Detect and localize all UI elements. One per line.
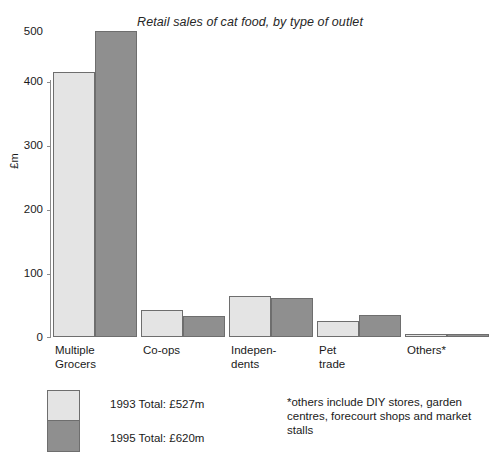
category-label-multiple-grocers: Multiple Grocers: [55, 344, 96, 371]
category-label-others: Others*: [407, 344, 446, 358]
category-label-co-ops: Co-ops: [143, 344, 180, 358]
y-tick-label-300: 300: [5, 139, 43, 151]
chart-title: Retail sales of cat food, by type of out…: [137, 15, 437, 29]
bar-group-multiple-grocers: [53, 30, 137, 338]
footnote-others: *others include DIY stores, garden centr…: [287, 395, 472, 437]
legend-swatch-1993: [47, 390, 80, 421]
bar-1995-others[interactable]: [447, 334, 489, 337]
y-tick-label-400: 400: [5, 75, 43, 87]
bar-group-independents: [229, 30, 313, 338]
bar-1993-others[interactable]: [405, 334, 447, 337]
plot-area: [50, 30, 472, 338]
bar-1995-pet-trade[interactable]: [359, 315, 401, 337]
y-tick-label-200: 200: [5, 203, 43, 215]
bar-1995-co-ops[interactable]: [183, 316, 225, 337]
bar-1993-multiple-grocers[interactable]: [53, 72, 95, 337]
bar-1993-co-ops[interactable]: [141, 310, 183, 337]
legend-label-1995: 1995 Total: £620m: [110, 432, 204, 444]
bar-1995-independents[interactable]: [271, 298, 313, 337]
bar-1993-pet-trade[interactable]: [317, 321, 359, 337]
y-tick-label-500: 500: [5, 25, 43, 37]
legend-label-1993: 1993 Total: £527m: [110, 398, 204, 410]
bar-1995-multiple-grocers[interactable]: [95, 31, 137, 337]
bar-group-others: [405, 30, 489, 338]
bar-1993-independents[interactable]: [229, 296, 271, 337]
y-tick-label-100: 100: [5, 267, 43, 279]
legend-swatch-1995: [47, 420, 80, 452]
y-tick-label-0: 0: [5, 331, 43, 343]
bar-group-pet-trade: [317, 30, 401, 338]
category-label-pet-trade: Pet trade: [319, 344, 345, 371]
bar-group-co-ops: [141, 30, 225, 338]
category-label-independents: Indepen- dents: [231, 344, 276, 371]
